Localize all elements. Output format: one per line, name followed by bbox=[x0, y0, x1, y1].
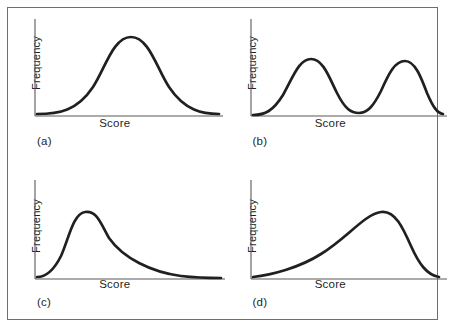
x-axis-title-b: Score bbox=[223, 117, 439, 129]
panel-d: Frequency Score (d) bbox=[223, 164, 439, 321]
distribution-curve-c bbox=[37, 211, 221, 277]
distribution-curve-a bbox=[37, 37, 219, 114]
panel-c: Frequency Score (c) bbox=[7, 164, 223, 321]
plot-area-d bbox=[247, 176, 451, 286]
x-axis-title-c: Score bbox=[7, 278, 223, 290]
distribution-curve-d bbox=[253, 211, 439, 276]
panel-a: Frequency Score (a) bbox=[7, 7, 223, 164]
panel-b: Frequency Score (b) bbox=[223, 7, 439, 164]
panel-label-d: (d) bbox=[253, 296, 268, 308]
panel-label-a: (a) bbox=[37, 135, 52, 147]
x-axis-title-a: Score bbox=[7, 117, 223, 129]
plot-area-b bbox=[247, 15, 451, 123]
plot-area-c bbox=[31, 176, 229, 286]
x-axis-title-d: Score bbox=[223, 278, 439, 290]
panel-label-b: (b) bbox=[253, 135, 268, 147]
panel-grid: Frequency Score (a) Frequency Score (b) … bbox=[7, 7, 438, 320]
panel-label-c: (c) bbox=[37, 296, 51, 308]
distribution-curve-b bbox=[253, 59, 443, 115]
plot-area-a bbox=[31, 15, 227, 123]
